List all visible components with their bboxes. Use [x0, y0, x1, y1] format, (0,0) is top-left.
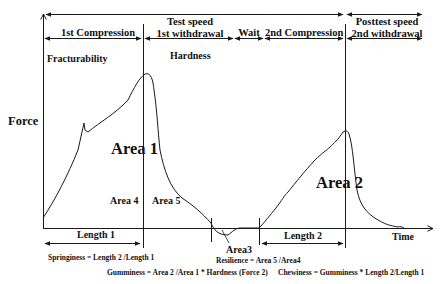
length1-label: Length 1: [77, 230, 115, 240]
area5-label: Area 5: [152, 196, 180, 206]
gumminess-formula: Gumminess = Area 2 /Area 1 * Hardness (F…: [107, 269, 268, 277]
area2-label: Area 2: [316, 175, 363, 192]
resilience-formula: Resilience = Area 5 /Area4: [216, 257, 300, 265]
length2-label: Length 2: [284, 231, 322, 241]
springiness-formula: Springiness = Length 2 /Length 1: [48, 254, 154, 262]
tpa-diagram: 1st Compression Test speed 1st withdrawa…: [0, 0, 445, 284]
phase-first-compression-label: 1st Compression: [58, 28, 138, 39]
phase-test-speed-label: Test speed 1st withdrawal: [145, 17, 235, 39]
area4-label: Area 4: [110, 196, 138, 206]
chewiness-formula: Chewiness = Gumminess * Length 2/Length …: [278, 269, 424, 277]
phase-second-compression-label: 2nd Compression: [265, 28, 341, 39]
phase-label-line2: 2nd withdrawal: [347, 29, 427, 40]
phase-label-line1: Posttest speed: [347, 17, 427, 28]
phase-label-text: 1st Compression: [61, 27, 135, 38]
x-axis-label: Time: [392, 232, 414, 242]
area1-label: Area 1: [111, 141, 158, 158]
phase-label-text: 2nd Compression: [265, 27, 343, 38]
area3-pointer: [222, 230, 229, 243]
area3-label: Area3: [226, 245, 252, 255]
phase-label-line1: Test speed: [145, 17, 235, 28]
fracturability-label: Fracturability: [47, 54, 108, 64]
hardness-label: Hardness: [170, 51, 211, 61]
phase-wait-label: Wait: [235, 28, 263, 39]
phase-label-text: Wait: [238, 27, 260, 38]
force-curve: [43, 74, 404, 235]
y-axis-label: Force: [8, 115, 38, 128]
phase-posttest-speed-label: Posttest speed 2nd withdrawal: [347, 17, 427, 39]
phase-label-line2: 1st withdrawal: [145, 29, 235, 40]
diagram-graphics: [0, 0, 445, 284]
